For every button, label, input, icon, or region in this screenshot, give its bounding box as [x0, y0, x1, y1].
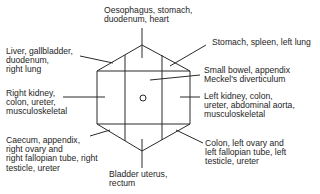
label-upper-left-region: Liver, gallbladder, duodenum, right lung — [6, 47, 73, 75]
label-upper-right-region: Stomach, spleen, left lung — [212, 38, 311, 47]
label-lower-left-region: Caecum, appendix, right ovary and right … — [6, 136, 98, 173]
leader-lower-right — [176, 130, 203, 143]
leader-center-right — [150, 75, 200, 80]
label-center-right-region: Small bowel, appendix Meckel's diverticu… — [204, 66, 290, 84]
leader-upper-left — [80, 56, 113, 63]
label-left-region: Right kidney, colon, ureter, musculoskel… — [6, 89, 67, 117]
abdominal-regions-diagram: Oesophagus, stomach, duodenum, heart Liv… — [0, 0, 320, 194]
leader-upper-right — [170, 45, 206, 66]
label-lower-right-region: Colon, left ovary and left fallopian tub… — [205, 139, 286, 167]
label-right-region: Left kidney, colon, ureter, abdominal ao… — [204, 92, 295, 120]
label-top-region: Oesophagus, stomach, duodenum, heart — [104, 6, 192, 24]
umbilicus-circle-icon — [140, 95, 146, 101]
hexagon-outline — [97, 45, 190, 151]
label-bottom-region: Bladder uterus, rectum — [109, 170, 167, 188]
